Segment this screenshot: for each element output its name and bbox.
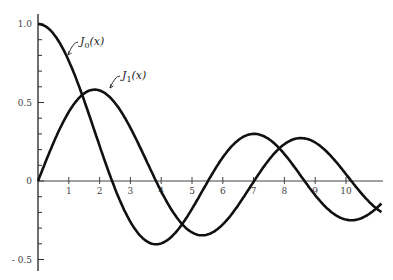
x-tick-label: 2	[97, 186, 103, 196]
x-tick-label: 3	[128, 186, 134, 196]
curves	[38, 24, 381, 244]
y-tick-label-zero: 0	[26, 176, 32, 186]
y-tick-label: - 0.5	[12, 255, 32, 265]
x-tick-label: 7	[251, 186, 257, 196]
x-axis: 12345678910	[38, 177, 383, 196]
curve-label-j1x: J1(x)	[120, 69, 146, 84]
x-tick-label: 8	[282, 186, 288, 196]
x-tick-label: 5	[189, 186, 195, 196]
curve-j1x	[38, 90, 381, 236]
y-axis: 1.00.5- 0.50	[12, 14, 44, 271]
bessel-chart: 1.00.5- 0.50 12345678910 J0(x)J1(x)	[0, 0, 393, 280]
curve-label-j0x: J0(x)	[78, 35, 104, 50]
x-tick-label: 1	[66, 186, 72, 196]
curve-labels: J0(x)J1(x)	[68, 35, 146, 88]
y-tick-label: 0.5	[18, 98, 33, 108]
y-tick-label: 1.0	[18, 19, 33, 29]
curve-j0x	[38, 24, 381, 244]
x-tick-label: 6	[220, 186, 226, 196]
x-tick-label: 10	[340, 186, 352, 196]
